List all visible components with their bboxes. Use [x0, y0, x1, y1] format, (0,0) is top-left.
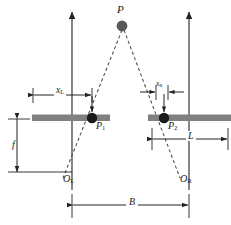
- right-projection-label: P2: [168, 121, 177, 132]
- left-projection-label: P1: [96, 121, 105, 132]
- ray-right: [124, 30, 180, 178]
- left-origin-label: OL: [63, 174, 74, 185]
- right-offset-label: xR: [156, 80, 163, 89]
- diagram-canvas: [0, 0, 231, 225]
- right-origin-label: OR: [180, 174, 192, 185]
- baseline-label: B: [126, 197, 138, 207]
- focal-length-label: f: [12, 139, 15, 151]
- world-point-label: P: [117, 4, 124, 15]
- focal-length-dimension: [8, 119, 72, 172]
- stereo-geometry-figure: P P1 P2 OL OR xL xR f L B: [0, 0, 231, 225]
- sensor-halfwidth-label: L: [186, 131, 196, 141]
- world-point-marker: [117, 21, 128, 32]
- right-offset-dimension: [140, 85, 184, 112]
- left-offset-label: xL: [54, 86, 66, 96]
- projection-rays: [63, 30, 180, 178]
